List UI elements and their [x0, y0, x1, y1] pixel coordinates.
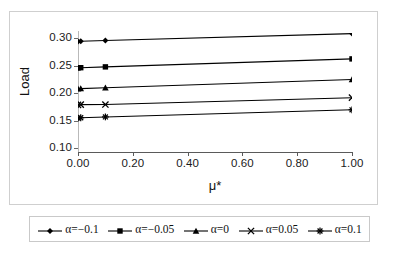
legend-marker-diamond-icon	[37, 223, 63, 235]
x-axis-tick-label: 0.80	[272, 157, 322, 169]
marker-square	[117, 228, 122, 233]
marker-square	[78, 65, 83, 70]
marker-square	[349, 56, 352, 61]
x-axis-tick-mark	[352, 152, 353, 156]
legend-marker-cross-icon	[238, 223, 264, 235]
x-axis-tick-mark	[297, 152, 298, 156]
legend-entry-4[interactable]: α=0.1	[307, 223, 362, 235]
y-axis-title: Load	[17, 52, 32, 112]
legend-label: α=−0.05	[135, 223, 174, 235]
legend-marker-triangle-icon	[183, 223, 209, 235]
y-axis-tick-label: 0.20	[32, 86, 72, 98]
y-axis-tick-label: 0.30	[32, 31, 72, 43]
x-axis-line	[78, 152, 353, 153]
plot-area	[78, 33, 352, 152]
series-4	[78, 106, 352, 121]
series-line	[78, 80, 352, 89]
chart-figure: 0.100.150.200.250.30 0.000.200.400.600.8…	[0, 0, 397, 254]
marker-asterisk	[316, 228, 323, 235]
x-axis-tick-label: 0.00	[53, 157, 103, 169]
legend-marker-asterisk-icon	[307, 223, 333, 235]
series-line	[78, 34, 352, 42]
legend-entry-2[interactable]: α=0	[183, 223, 229, 235]
marker-diamond	[47, 228, 53, 234]
series-canvas	[78, 33, 352, 152]
y-axis-tick-label: 0.15	[32, 114, 72, 126]
series-3	[78, 95, 352, 108]
series-2	[78, 76, 352, 91]
x-axis-tick-mark	[188, 152, 189, 156]
series-0	[78, 33, 352, 45]
series-line	[78, 98, 352, 105]
legend-entry-0[interactable]: α=−0.1	[37, 223, 98, 235]
legend-entry-3[interactable]: α=0.05	[238, 223, 299, 235]
x-axis-tick-label: 0.60	[217, 157, 267, 169]
marker-asterisk	[78, 114, 84, 121]
y-axis-tick-label: 0.25	[32, 59, 72, 71]
marker-square	[103, 64, 108, 69]
chart-legend: α=−0.1α=−0.05α=0α=0.05α=0.1	[29, 216, 370, 242]
legend-entry-1[interactable]: α=−0.05	[107, 223, 174, 235]
series-line	[78, 110, 352, 118]
x-axis-tick-mark	[242, 152, 243, 156]
legend-label: α=−0.1	[65, 223, 98, 235]
legend-label: α=0.1	[335, 223, 362, 235]
x-axis-tick-mark	[78, 152, 79, 156]
x-axis-title: μ*	[78, 178, 352, 193]
series-line	[78, 59, 352, 68]
legend-label: α=0.05	[266, 223, 299, 235]
series-1	[78, 56, 352, 70]
x-axis-tick-mark	[133, 152, 134, 156]
x-axis-tick-label: 1.00	[327, 157, 377, 169]
y-axis-tick-label: 0.10	[32, 141, 72, 153]
marker-asterisk	[349, 106, 352, 113]
legend-marker-square-icon	[107, 223, 133, 235]
marker-diamond	[349, 33, 352, 37]
marker-diamond	[102, 37, 108, 43]
x-axis-tick-label: 0.20	[108, 157, 158, 169]
marker-asterisk	[102, 114, 109, 121]
legend-label: α=0	[211, 223, 229, 235]
x-axis-tick-label: 0.40	[163, 157, 213, 169]
